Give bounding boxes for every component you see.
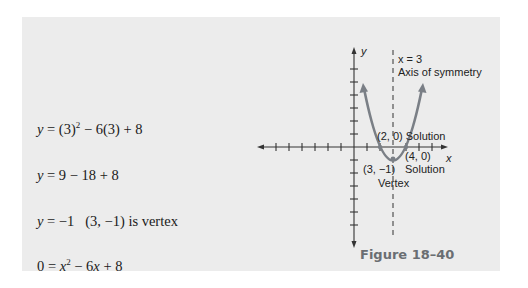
vertex-label: Vertex — [378, 177, 409, 189]
y-axis-down-arrow-icon — [352, 241, 357, 248]
parabola-graph — [0, 0, 528, 288]
vertex-coord: (3, −1) — [363, 163, 395, 175]
y-axis-up-arrow-icon — [352, 47, 357, 54]
axis-of-symmetry-label: Axis of symmetry — [398, 66, 482, 78]
point-4-0 — [404, 145, 408, 149]
axis-equation-label: x = 3 — [398, 53, 422, 65]
curve-left-arrow-icon — [360, 83, 369, 93]
point-2-0 — [378, 145, 382, 149]
figure-caption: Figure 18–40 — [360, 247, 454, 262]
x-axis-left-arrow-icon — [257, 145, 264, 150]
solution-1-label: (2, 0) Solution — [377, 130, 445, 142]
solution-2-coord: (4, 0) — [405, 150, 431, 162]
x-axis-right-arrow-icon — [441, 145, 448, 150]
x-axis-label: x — [446, 152, 452, 164]
curve-right-arrow-icon — [418, 83, 427, 93]
solution-2-label: Solution — [405, 163, 445, 175]
vertex-point — [391, 157, 396, 162]
y-axis-label: y — [361, 45, 367, 57]
